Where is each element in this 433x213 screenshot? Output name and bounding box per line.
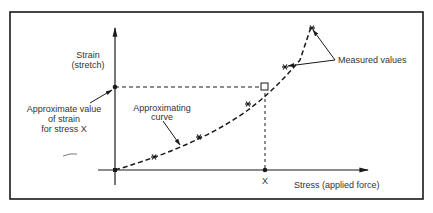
x-marker-label: X — [262, 176, 268, 186]
measured-point — [151, 155, 157, 160]
strain-point — [113, 85, 118, 90]
approximating-curve — [115, 27, 311, 170]
approx-value-label-line3: for stress X — [41, 124, 87, 134]
stress-strain-diagram: Strain (stretch) Approximate value of st… — [0, 0, 433, 213]
x-axis-label: Stress (applied force) — [294, 180, 380, 190]
approx-curve-label-line2: curve — [151, 112, 173, 122]
y-axis-label-line2: (stretch) — [71, 60, 104, 70]
approx-value-label-line2: of strain — [48, 114, 80, 124]
approx-curve-arrow — [163, 121, 180, 145]
approx-value-arrow — [90, 90, 112, 103]
origin-point — [113, 168, 117, 172]
stray-mark — [63, 154, 77, 156]
stress-x-point — [263, 168, 268, 173]
measured-arrow-lower — [288, 60, 335, 66]
measured-values-label: Measured values — [338, 55, 407, 65]
measured-arrow-upper — [313, 30, 335, 60]
approx-value-label-line1: Approximate value — [27, 104, 102, 114]
measured-point — [245, 102, 251, 107]
approximated-point-box — [261, 83, 268, 90]
measured-point — [282, 65, 288, 70]
y-axis-label-line1: Strain — [76, 50, 100, 60]
measured-point — [309, 26, 315, 31]
